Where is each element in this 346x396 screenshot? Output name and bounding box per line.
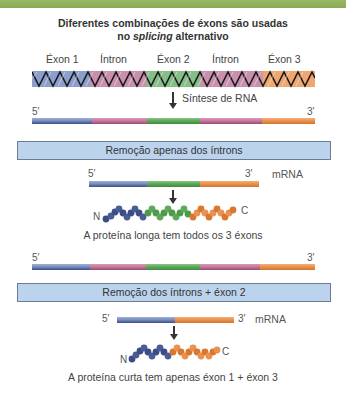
label-exon-2: Éxon 2 [157, 53, 190, 65]
label-exon-3: Éxon 3 [268, 53, 301, 65]
segment-exon-3 [262, 118, 315, 124]
segment-intron-1 [92, 118, 147, 124]
mrna2-five-prime: 5′ [102, 313, 109, 324]
pathway-1-box: Remoção apenas dos íntrons [17, 141, 331, 160]
three-prime-label: 3′ [307, 252, 314, 263]
long-protein-caption: A proteína longa tem todos os 3 éxons [0, 229, 346, 241]
down-arrow-icon [172, 92, 174, 104]
mature-mrna-1-bar [89, 181, 259, 187]
mrna2-label: mRNA [255, 313, 286, 325]
segment-exon-3 [200, 181, 259, 187]
title-prefix: no [117, 30, 133, 42]
exon1-residues [103, 206, 147, 223]
short-protein-caption: A proteína curta tem apenas éxon 1 + éxo… [0, 371, 346, 383]
five-prime-label: 5′ [32, 106, 39, 117]
protein2-c-terminus: C [222, 346, 229, 357]
exon2-residues [145, 206, 192, 221]
long-protein-chain [102, 203, 240, 225]
dna-double-helix [32, 69, 315, 89]
pathway-2-box: Remoção dos íntrons + éxon 2 [17, 283, 331, 302]
segment-exon-2 [147, 118, 200, 124]
diagram-title-line1: Diferentes combinações de éxons são usad… [0, 17, 346, 29]
segment-exon-3 [260, 264, 315, 270]
five-prime-label: 5′ [32, 252, 39, 263]
protein2-n-terminus: N [120, 354, 127, 365]
pre-mrna-bar [32, 118, 315, 124]
label-exon-1: Éxon 1 [46, 53, 79, 65]
down-arrow-icon [172, 190, 174, 199]
rna-synthesis-label: Síntese de RNA [182, 92, 257, 104]
label-intron-1: Íntron [100, 53, 127, 65]
segment-exon-3 [175, 317, 234, 323]
segment-intron-1 [90, 264, 146, 270]
segment-exon-1 [32, 264, 90, 270]
protein1-n-terminus: N [93, 211, 100, 222]
pre-mrna-bar-2 [32, 264, 315, 270]
segment-exon-1 [89, 181, 147, 187]
three-prime-label: 3′ [307, 106, 314, 117]
title-italic: splicing [133, 30, 173, 42]
down-arrow-icon [173, 326, 175, 335]
short-protein-chain [128, 343, 224, 365]
mrna1-label: mRNA [272, 168, 303, 180]
segment-exon-2 [146, 264, 200, 270]
diagram-title-line2: no splicing alternativo [0, 30, 346, 42]
segment-exon-1 [32, 118, 92, 124]
exon1-residues [129, 345, 172, 363]
label-intron-2: Íntron [212, 53, 239, 65]
mature-mrna-2-bar [117, 317, 234, 323]
segment-exon-1 [117, 317, 175, 323]
top-decorative-band [0, 0, 346, 8]
mrna2-three-prime: 3′ [238, 313, 245, 324]
exon3-residues [190, 206, 237, 221]
mrna1-three-prime: 3′ [245, 168, 252, 179]
segment-intron-2 [200, 118, 262, 124]
title-suffix: alternativo [173, 30, 229, 42]
segment-intron-2 [200, 264, 260, 270]
segment-exon-2 [147, 181, 200, 187]
exon3-residues [170, 345, 221, 360]
mrna1-five-prime: 5′ [88, 168, 95, 179]
protein1-c-terminus: C [241, 205, 248, 216]
